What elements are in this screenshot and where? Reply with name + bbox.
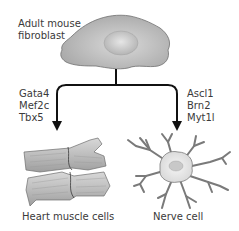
heart-muscle-cells-icon xyxy=(24,138,110,206)
nerve-cell-label: Nerve cell xyxy=(153,211,203,223)
neuronal-factors-list: Ascl1 Brn2 Myt1l xyxy=(187,88,215,124)
source-cell-label-line2: fibroblast xyxy=(18,30,81,42)
factor-item: Brn2 xyxy=(187,100,215,112)
factor-item: Mef2c xyxy=(19,100,49,112)
source-cell-label-line1: Adult mouse xyxy=(18,18,81,30)
factor-item: Ascl1 xyxy=(187,88,215,100)
factor-item: Gata4 xyxy=(19,88,49,100)
arrowhead-left-icon xyxy=(52,121,62,131)
source-cell-label: Adult mouse fibroblast xyxy=(18,18,81,42)
branching-arrow xyxy=(57,69,177,123)
heart-muscle-cells-label: Heart muscle cells xyxy=(22,211,114,223)
cardiac-factors-list: Gata4 Mef2c Tbx5 xyxy=(19,88,49,124)
nerve-cell-icon xyxy=(128,134,230,208)
arrowhead-right-icon xyxy=(172,121,182,131)
factor-item: Tbx5 xyxy=(19,112,49,124)
factor-item: Myt1l xyxy=(187,112,215,124)
